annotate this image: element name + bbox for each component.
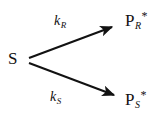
- species-base: P: [125, 90, 134, 109]
- rate-subscript: R: [61, 20, 67, 30]
- rate-subscript: S: [57, 96, 62, 106]
- reaction-scheme-diagram: S PR* PS* kR kS: [0, 0, 156, 116]
- species-product-ps: PS*: [125, 89, 146, 110]
- arrow-s-to-pr: [29, 27, 112, 58]
- rate-base: k: [50, 89, 56, 104]
- species-subscript: R: [135, 20, 141, 31]
- species-product-pr: PR*: [125, 10, 148, 31]
- rate-constant-kr: kR: [54, 12, 66, 30]
- species-base: S: [8, 49, 17, 68]
- rate-base: k: [54, 13, 60, 28]
- species-reactant-s: S: [8, 50, 17, 67]
- species-superscript-asterisk: *: [142, 9, 148, 23]
- rate-constant-ks: kS: [50, 88, 61, 106]
- species-superscript-asterisk: *: [140, 88, 146, 102]
- arrow-s-to-ps: [29, 63, 114, 95]
- species-base: P: [125, 11, 134, 30]
